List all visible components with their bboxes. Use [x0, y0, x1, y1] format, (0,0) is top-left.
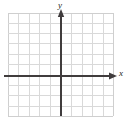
- coordinate-plane-figure: x y: [0, 0, 134, 122]
- coordinate-grid-canvas: [0, 0, 134, 122]
- y-axis-label: y: [58, 1, 62, 10]
- x-axis-label: x: [119, 69, 123, 78]
